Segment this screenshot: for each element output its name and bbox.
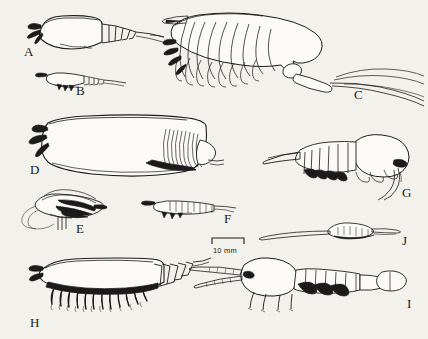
specimen-f [141,201,236,219]
specimen-a [27,16,164,49]
specimen-e [22,190,107,230]
figure-plate: 10 mm A B C D E F G H I J [0,0,428,339]
specimen-c [162,13,424,106]
scale-bar-label: 10 mm [213,246,237,255]
specimen-g [263,135,409,200]
panel-label-g: G [402,186,411,199]
specimen-i [189,258,406,312]
plate-artwork [0,0,428,339]
panel-label-j: J [402,234,407,247]
panel-label-h: H [30,316,39,329]
panel-label-c: C [354,88,363,101]
panel-label-f: F [224,212,231,225]
panel-label-b: B [76,84,85,97]
panel-label-i: I [407,297,411,310]
specimen-j [259,223,400,240]
panel-label-d: D [30,163,39,176]
specimen-h [29,258,211,312]
panel-label-a: A [24,45,33,58]
specimen-d [29,115,224,176]
scale-bar-graphic [210,236,250,246]
panel-label-e: E [76,222,84,235]
